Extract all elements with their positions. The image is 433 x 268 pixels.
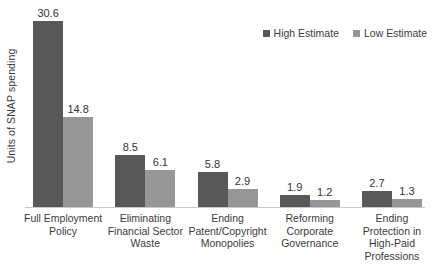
x-axis-category-label: ReformingCorporateGovernance	[269, 210, 351, 268]
bar-fill	[145, 170, 175, 207]
category-label-line: Protection in	[353, 225, 431, 238]
y-axis-title: Units of SNAP spending	[5, 49, 17, 164]
bar-value-label: 14.8	[67, 103, 88, 115]
bar-high-estimate[interactable]: 5.8	[198, 172, 228, 207]
bar-fill	[115, 155, 145, 207]
plot-area: 30.614.88.56.15.82.91.91.22.71.3	[22, 8, 433, 208]
bar-value-label: 30.6	[37, 7, 58, 19]
bar-pair: 2.71.3	[362, 8, 422, 207]
bar-fill	[198, 172, 228, 207]
bar-group: 30.614.8	[22, 8, 104, 207]
bar-low-estimate[interactable]: 1.2	[310, 200, 340, 207]
bar-value-label: 1.9	[287, 181, 302, 193]
category-label-line: Monopolies	[188, 237, 266, 250]
bar-high-estimate[interactable]: 1.9	[280, 195, 310, 207]
bar-high-estimate[interactable]: 8.5	[115, 155, 145, 207]
bar-group: 8.56.1	[104, 8, 186, 207]
category-label-line: Full Employment	[24, 212, 102, 225]
bar-value-label: 2.9	[235, 175, 250, 187]
bar-group: 5.82.9	[186, 8, 268, 207]
bar-fill	[280, 195, 310, 207]
bar-pair: 5.82.9	[198, 8, 258, 207]
x-axis-category-label: EndingPatent/CopyrightMonopolies	[186, 210, 268, 268]
category-label-line: High-Paid	[353, 237, 431, 250]
category-label-line: Patent/Copyright	[188, 225, 266, 238]
category-label-line: Waste	[106, 237, 184, 250]
bar-group: 1.91.2	[269, 8, 351, 207]
bar-fill	[33, 21, 63, 207]
bar-value-label: 8.5	[123, 141, 138, 153]
category-label-line: Policy	[24, 225, 102, 238]
bar-pair: 30.614.8	[33, 8, 93, 207]
bar-high-estimate[interactable]: 30.6	[33, 21, 63, 207]
bar-high-estimate[interactable]: 2.7	[362, 191, 392, 207]
bar-pair: 8.56.1	[115, 8, 175, 207]
category-label-line: Ending	[353, 212, 431, 225]
bar-low-estimate[interactable]: 14.8	[63, 117, 93, 207]
category-label-line: Governance	[271, 237, 349, 250]
category-label-line: Financial Sector	[106, 225, 184, 238]
x-axis-category-label: EliminatingFinancial SectorWaste	[104, 210, 186, 268]
bar-groups: 30.614.88.56.15.82.91.91.22.71.3	[22, 8, 433, 207]
bar-fill	[228, 189, 258, 207]
bar-value-label: 1.3	[399, 185, 414, 197]
bar-group: 2.71.3	[351, 8, 433, 207]
bar-low-estimate[interactable]: 2.9	[228, 189, 258, 207]
bar-pair: 1.91.2	[280, 8, 340, 207]
bar-value-label: 2.7	[369, 177, 384, 189]
bar-low-estimate[interactable]: 6.1	[145, 170, 175, 207]
category-label-line: Corporate	[271, 225, 349, 238]
bar-fill	[310, 200, 340, 207]
bar-value-label: 1.2	[317, 186, 332, 198]
category-label-line: Ending	[188, 212, 266, 225]
bar-low-estimate[interactable]: 1.3	[392, 199, 422, 207]
bar-chart: Units of SNAP spending High Estimate Low…	[0, 0, 433, 268]
x-axis-category-label: EndingProtection inHigh-PaidProfessions	[351, 210, 433, 268]
x-axis-line	[25, 207, 425, 208]
category-label-line: Eliminating	[106, 212, 184, 225]
category-label-line: Professions	[353, 250, 431, 263]
x-axis-category-labels: Full EmploymentPolicyEliminatingFinancia…	[22, 210, 433, 268]
bar-value-label: 6.1	[153, 156, 168, 168]
bar-fill	[362, 191, 392, 207]
bar-fill	[63, 117, 93, 207]
category-label-line: Reforming	[271, 212, 349, 225]
x-axis-category-label: Full EmploymentPolicy	[22, 210, 104, 268]
y-axis-title-container: Units of SNAP spending	[0, 0, 22, 212]
bar-value-label: 5.8	[205, 158, 220, 170]
bar-fill	[392, 199, 422, 207]
